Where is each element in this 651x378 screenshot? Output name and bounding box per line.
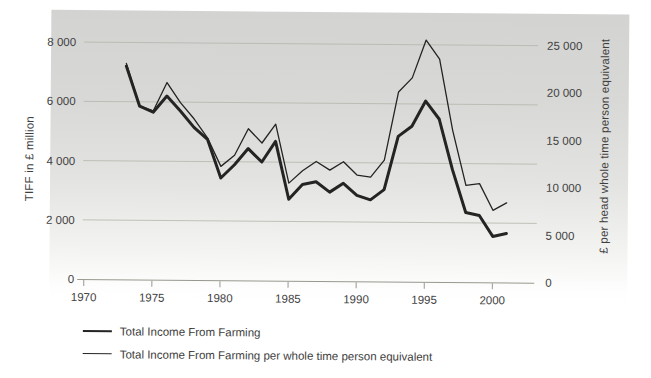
series-line-per-head xyxy=(125,38,508,211)
right-axis-tick-label-15000: 15 000 xyxy=(546,134,581,148)
x-axis-tick-label-1995: 1995 xyxy=(402,293,446,307)
legend-label-per-head: Total Income From Farming per whole time… xyxy=(120,348,433,362)
x-axis-tick-label-1990: 1990 xyxy=(334,292,378,306)
left-axis-tick-label-0: 0 xyxy=(68,272,75,286)
left-axis-tick-label-2000: 2 000 xyxy=(46,213,75,227)
x-axis-tick-label-1975: 1975 xyxy=(130,290,174,304)
x-axis-line xyxy=(77,280,534,284)
legend-line-swatch-thin xyxy=(83,353,112,354)
chart-area: 02 0004 0006 0008 00005 00010 00015 0002… xyxy=(0,0,651,378)
chart-page: 02 0004 0006 0008 00005 00010 00015 0002… xyxy=(0,0,651,378)
right-axis-title: £ per head whole time person equivalent xyxy=(597,16,611,276)
x-axis-tick-label-1985: 1985 xyxy=(266,292,310,306)
right-axis-tick-label-5000: 5 000 xyxy=(546,228,575,242)
right-axis-tick-label-20000: 20 000 xyxy=(547,86,582,100)
legend: Total Income From Farming Total Income F… xyxy=(83,319,433,368)
left-axis-tick-label-6000: 6 000 xyxy=(47,94,76,108)
legend-item-tiff: Total Income From Farming xyxy=(83,319,433,345)
left-axis-tick-label-8000: 8 000 xyxy=(47,35,76,49)
right-axis-tick-label-0: 0 xyxy=(545,276,552,290)
series-line-tiff xyxy=(125,66,508,236)
legend-label-tiff: Total Income From Farming xyxy=(120,325,261,338)
x-axis-tick-label-1980: 1980 xyxy=(198,291,242,305)
left-axis-tick-label-4000: 4 000 xyxy=(46,153,75,167)
gridline xyxy=(83,220,537,224)
left-axis-title: TIFF in £ million xyxy=(23,79,36,239)
gridline xyxy=(83,161,537,165)
x-axis-tick-label-2000: 2000 xyxy=(470,293,514,307)
right-axis-tick-label-10000: 10 000 xyxy=(546,181,581,195)
legend-item-per-head: Total Income From Farming per whole time… xyxy=(83,342,433,368)
legend-line-swatch-thick xyxy=(83,330,112,332)
gridline xyxy=(84,42,538,46)
x-axis-tick-label-1970: 1970 xyxy=(62,290,106,304)
gridline xyxy=(84,101,538,105)
right-axis-tick-label-25000: 25 000 xyxy=(547,39,582,53)
